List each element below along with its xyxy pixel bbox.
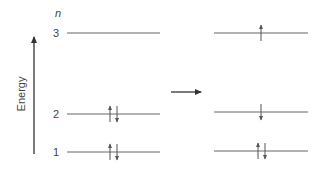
quantum-number-label: n: [55, 7, 61, 19]
energy-level-diagram: Energy n 3 2 1: [0, 0, 328, 172]
left-level-1: [67, 144, 160, 160]
right-level-1: [214, 143, 308, 159]
level-label-3: 3: [53, 27, 59, 39]
right-level-3: [214, 25, 308, 41]
right-level-2: [214, 104, 308, 120]
left-level-2: [67, 106, 160, 122]
energy-axis-label: Energy: [15, 76, 27, 111]
level-label-1: 1: [53, 146, 59, 158]
level-label-2: 2: [53, 108, 59, 120]
